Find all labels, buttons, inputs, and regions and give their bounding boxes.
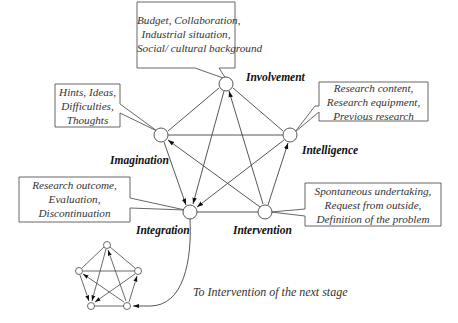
callout-line: Research outcome, bbox=[19, 178, 130, 192]
node-intelligence bbox=[283, 128, 297, 142]
label-imagination: Imagination bbox=[110, 154, 169, 166]
callout-line: Definition of the problem bbox=[305, 212, 441, 226]
callout-text-involvement: Budget, Collaboration, Industrial situat… bbox=[137, 13, 235, 55]
next-stage-caption: To Intervention of the next stage bbox=[193, 285, 348, 300]
label-integration: Integration bbox=[136, 224, 190, 236]
node-imagination bbox=[154, 128, 168, 142]
node-intervention bbox=[258, 205, 272, 219]
main-nodes bbox=[154, 77, 297, 219]
next-stage-edges bbox=[80, 247, 137, 306]
callout-line: Thoughts bbox=[55, 113, 120, 127]
callout-line: Research equipment, bbox=[319, 95, 428, 109]
label-intervention: Intervention bbox=[233, 224, 292, 236]
callout-line: Social/ cultural background bbox=[137, 41, 235, 55]
callout-text-integration: Research outcome, Evaluation, Discontinu… bbox=[19, 178, 130, 220]
callout-line: Discontinuation bbox=[19, 206, 130, 220]
callout-line: Hints, Ideas, bbox=[55, 85, 120, 99]
callout-line: Budget, Collaboration, bbox=[137, 13, 235, 27]
callout-line: Industrial situation, bbox=[137, 27, 235, 41]
main-edges bbox=[133, 88, 288, 306]
label-involvement: Involvement bbox=[246, 71, 305, 83]
node-integration bbox=[183, 205, 197, 219]
callout-text-imagination: Hints, Ideas, Difficulties, Thoughts bbox=[55, 85, 120, 127]
callout-text-intervention: Spontaneous undertaking, Request from ou… bbox=[305, 184, 441, 226]
callout-text-intelligence: Research content, Research equipment, Pr… bbox=[319, 81, 428, 123]
callout-line: Difficulties, bbox=[55, 99, 120, 113]
callout-line: Spontaneous undertaking, bbox=[305, 184, 441, 198]
callout-line: Research content, bbox=[319, 81, 428, 95]
label-intelligence: Intelligence bbox=[302, 144, 358, 156]
callout-line: Request from outside, bbox=[305, 198, 441, 212]
callout-line: Previous research bbox=[319, 109, 428, 123]
node-involvement bbox=[219, 77, 233, 91]
callout-line: Evaluation, bbox=[19, 192, 130, 206]
